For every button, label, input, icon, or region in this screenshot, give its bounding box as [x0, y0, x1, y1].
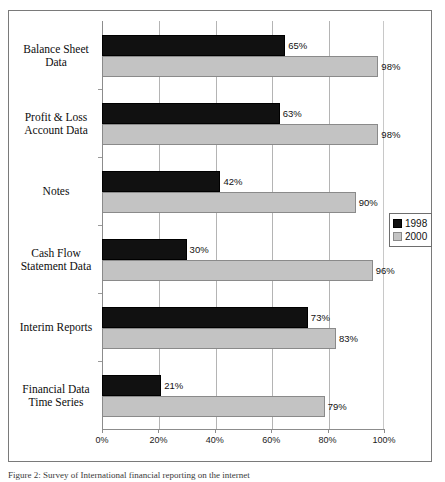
x-axis-tick-label: 40% — [206, 435, 224, 445]
x-axis-line — [102, 429, 385, 430]
x-axis-tick-label: 0% — [95, 435, 108, 445]
bar-value-label: 90% — [359, 197, 378, 208]
bar-2000-4 — [102, 260, 373, 281]
y-axis-tick — [98, 225, 102, 226]
bar-2000-3 — [102, 192, 356, 213]
category-label-line: Interim Reports — [13, 321, 99, 335]
x-axis-tick — [271, 429, 272, 433]
category-label: Interim Reports — [13, 321, 99, 335]
x-axis-tick — [384, 429, 385, 433]
category-label: Financial DataTime Series — [13, 383, 99, 410]
category-label-line: Profit & Loss — [13, 111, 99, 125]
legend-item-2000[interactable]: 2000 — [393, 230, 427, 243]
bar-1998-5 — [102, 307, 308, 328]
bar-value-label: 65% — [288, 40, 307, 51]
gridline — [329, 21, 330, 429]
bar-1998-6 — [102, 375, 161, 396]
x-axis-tick-label: 60% — [262, 435, 280, 445]
bar-value-label: 30% — [190, 244, 209, 255]
gridline — [159, 21, 160, 429]
x-axis-tick — [328, 429, 329, 433]
bar-value-label: 98% — [381, 129, 400, 140]
bar-value-label: 42% — [223, 176, 242, 187]
category-label: Profit & LossAccount Data — [13, 111, 99, 138]
figure-frame: 1998 2000 0%20%40%60%80%100%Balance Shee… — [8, 10, 432, 462]
black-square-swatch-icon — [393, 219, 402, 228]
category-label-line: Financial Data — [13, 383, 99, 397]
category-label-line: Notes — [13, 185, 99, 199]
y-axis-tick — [98, 157, 102, 158]
gray-square-swatch-icon — [393, 232, 402, 241]
plot-area — [102, 21, 384, 429]
bar-value-label: 73% — [311, 312, 330, 323]
bar-2000-5 — [102, 328, 336, 349]
category-label-line: Statement Data — [13, 260, 99, 274]
legend-label-1998: 1998 — [405, 218, 427, 229]
x-axis-tick-label: 80% — [319, 435, 337, 445]
category-label-line: Account Data — [13, 124, 99, 138]
bar-value-label: 98% — [381, 61, 400, 72]
y-axis-tick — [98, 89, 102, 90]
y-axis-tick — [98, 293, 102, 294]
bar-2000-1 — [102, 56, 378, 77]
bar-2000-2 — [102, 124, 378, 145]
category-label: Cash FlowStatement Data — [13, 247, 99, 274]
category-label: Notes — [13, 185, 99, 199]
legend-item-1998[interactable]: 1998 — [393, 217, 427, 230]
bar-1998-1 — [102, 35, 285, 56]
x-axis-tick — [102, 429, 103, 433]
category-label: Balance SheetData — [13, 43, 99, 70]
bar-value-label: 83% — [339, 333, 358, 344]
gridline — [272, 21, 273, 429]
x-axis-tick — [158, 429, 159, 433]
chart-legend: 1998 2000 — [389, 213, 432, 247]
x-axis-tick-label: 20% — [149, 435, 167, 445]
x-axis-tick-label: 100% — [372, 435, 395, 445]
category-label-line: Data — [13, 56, 99, 70]
bar-1998-2 — [102, 103, 280, 124]
bar-1998-3 — [102, 171, 220, 192]
category-label-line: Balance Sheet — [13, 43, 99, 57]
bar-value-label: 79% — [328, 401, 347, 412]
bar-value-label: 21% — [164, 380, 183, 391]
bar-1998-4 — [102, 239, 187, 260]
category-label-line: Time Series — [13, 396, 99, 410]
bar-value-label: 63% — [283, 108, 302, 119]
bar-value-label: 96% — [376, 265, 395, 276]
x-axis-tick — [215, 429, 216, 433]
y-axis-tick — [98, 361, 102, 362]
category-label-line: Cash Flow — [13, 247, 99, 261]
legend-label-2000: 2000 — [405, 231, 427, 242]
gridline — [216, 21, 217, 429]
figure-caption: Figure 2: Survey of International financ… — [8, 470, 428, 481]
bar-2000-6 — [102, 396, 325, 417]
